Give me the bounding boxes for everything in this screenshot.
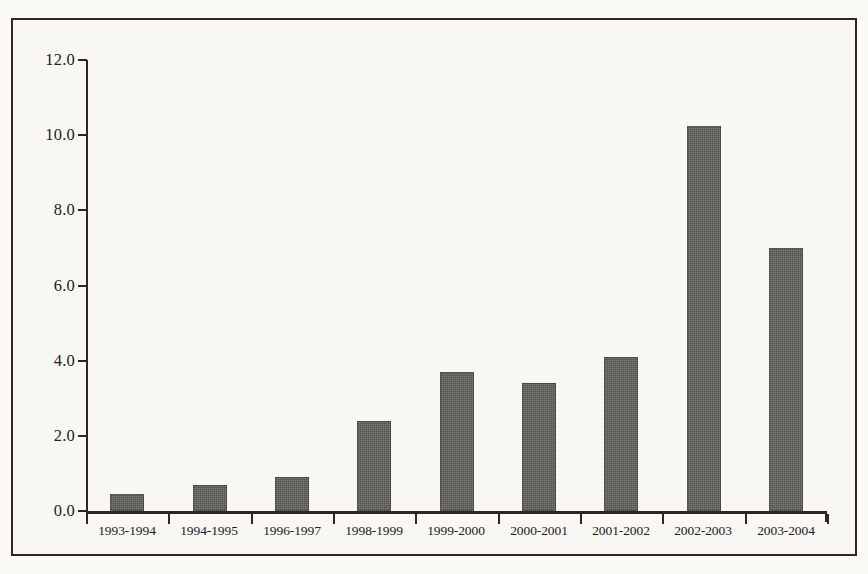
plot-area: 0.02.04.06.08.010.012.0 1993-19941994-19… (13, 20, 855, 554)
y-axis-tick-label: 12.0 (19, 50, 75, 70)
y-axis-tick-label: 4.0 (19, 351, 75, 371)
chart-frame-border: 0.02.04.06.08.010.012.0 1993-19941994-19… (11, 18, 857, 556)
figure: 0.02.04.06.08.010.012.0 1993-19941994-19… (0, 0, 868, 574)
bar (275, 477, 309, 511)
y-axis-tick-label: 6.0 (19, 276, 75, 296)
bar (193, 485, 227, 511)
x-axis-category-label: 1993-1994 (86, 523, 168, 539)
y-axis-tick (78, 134, 87, 136)
x-axis-category-label: 2003-2004 (745, 523, 827, 539)
x-axis-category-label: 1998-1999 (333, 523, 415, 539)
bar (357, 421, 391, 511)
x-axis-category-label: 2002-2003 (662, 523, 744, 539)
x-axis-category-label: 1994-1995 (168, 523, 250, 539)
bar (110, 494, 144, 511)
x-axis-category-label: 2000-2001 (498, 523, 580, 539)
y-axis-tick (78, 435, 87, 437)
bar (440, 372, 474, 511)
x-axis-category-label: 1999-2000 (415, 523, 497, 539)
y-axis-tick (78, 360, 87, 362)
y-axis-tick-label: 8.0 (19, 200, 75, 220)
x-axis-category-label: 1996-1997 (251, 523, 333, 539)
y-axis-tick-label: 10.0 (19, 125, 75, 145)
bar (604, 357, 638, 511)
bar (522, 383, 556, 511)
x-axis-category-label: 2001-2002 (580, 523, 662, 539)
y-axis-tick (78, 59, 87, 61)
x-axis-line (86, 511, 827, 514)
y-axis-tick (78, 285, 87, 287)
bar (769, 248, 803, 511)
x-axis-tick (827, 514, 829, 524)
bar (687, 126, 721, 511)
y-axis-tick-label: 0.0 (19, 501, 75, 521)
y-axis-tick-label: 2.0 (19, 426, 75, 446)
y-axis-tick (78, 510, 87, 512)
y-axis-tick (78, 209, 87, 211)
